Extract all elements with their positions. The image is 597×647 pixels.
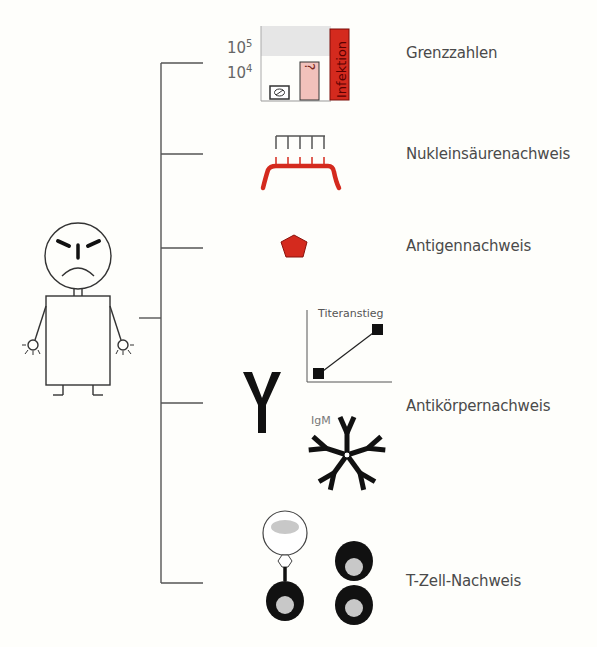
- t-cell-icon: [263, 511, 373, 625]
- sick-person-icon: [22, 223, 134, 395]
- bar-infection-label: Infektion: [334, 41, 349, 98]
- label-grenzzahlen: Grenzzahlen: [406, 44, 497, 62]
- bar-uncertain-label: ?: [302, 63, 318, 70]
- titer-rise-label: Titeranstieg: [318, 307, 384, 320]
- label-antigennachweis: Antigennachweis: [406, 237, 531, 255]
- label-nukleinsaeurenachweis: Nukleinsäurenachweis: [406, 145, 570, 163]
- igm-pentamer-icon: [309, 417, 386, 490]
- y-tick-1e4: 104: [227, 63, 252, 82]
- y-tick-1e5: 105: [227, 38, 252, 57]
- label-antikoerpernachweis: Antikörpernachweis: [406, 397, 550, 415]
- tree-connector: [139, 63, 203, 583]
- diagram-canvas: [0, 0, 597, 647]
- igm-label: IgM: [311, 414, 331, 427]
- titer-chart-icon: [307, 310, 392, 382]
- nucleic-acid-icon: [263, 136, 339, 188]
- label-t-zell-nachweis: T-Zell-Nachweis: [406, 572, 521, 590]
- antigen-icon: [281, 235, 307, 257]
- antibody-y-icon: [243, 372, 281, 433]
